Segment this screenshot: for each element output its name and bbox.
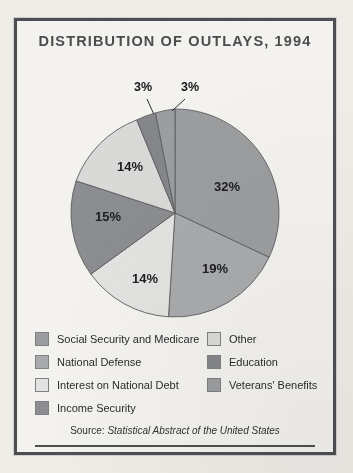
callout-line-education — [147, 99, 154, 114]
legend-item-social-security-and-medicare[interactable]: Social Security and Medicare — [35, 332, 207, 346]
legend-swatch-icon — [207, 332, 221, 346]
pie-label-interest-national-debt: 14% — [132, 271, 158, 286]
legend-label: Social Security and Medicare — [57, 333, 199, 345]
page-title: DISTRIBUTION OF OUTLAYS, 1994 — [17, 33, 333, 49]
legend-label: Education — [229, 356, 278, 368]
source-divider — [35, 445, 315, 447]
legend-label: Income Security — [57, 402, 136, 414]
legend-swatch-icon — [35, 355, 49, 369]
legend-item-education[interactable]: Education — [207, 355, 321, 369]
source-prefix: Source: — [70, 425, 104, 436]
pie-label-other: 14% — [117, 159, 143, 174]
legend-swatch-icon — [207, 355, 221, 369]
legend-label: Veterans' Benefits — [229, 379, 317, 391]
figure-panel: DISTRIBUTION OF OUTLAYS, 1994 — [14, 18, 336, 455]
legend-item-income-security[interactable]: Income Security — [35, 401, 207, 415]
pie-label-social-security: 32% — [214, 179, 240, 194]
source-note: Source: Statistical Abstract of the Unit… — [17, 425, 333, 436]
legend-swatch-icon — [35, 332, 49, 346]
pie-chart: 32% 19% 14% 15% 14% 3% 3% — [17, 61, 333, 323]
legend-item-national-defense[interactable]: National Defense — [35, 355, 207, 369]
legend-label: Interest on National Debt — [57, 379, 179, 391]
pie-label-education: 3% — [134, 80, 152, 94]
legend-swatch-icon — [35, 378, 49, 392]
source-text: Statistical Abstract of the United State… — [107, 425, 280, 436]
legend-label: Other — [229, 333, 257, 345]
legend-item-other[interactable]: Other — [207, 332, 321, 346]
legend-swatch-icon — [35, 401, 49, 415]
pie-label-national-defense: 19% — [202, 261, 228, 276]
legend-item-veterans-benefits[interactable]: Veterans' Benefits — [207, 378, 321, 392]
legend-swatch-icon — [207, 378, 221, 392]
legend-label: National Defense — [57, 356, 141, 368]
pie-chart-svg: 32% 19% 14% 15% 14% 3% 3% — [25, 61, 325, 323]
legend-item-interest-on-national-debt[interactable]: Interest on National Debt — [35, 378, 207, 392]
scanned-page: DISTRIBUTION OF OUTLAYS, 1994 — [0, 0, 353, 473]
pie-label-income-security: 15% — [95, 209, 121, 224]
legend: Social Security and Medicare Other Natio… — [35, 327, 321, 419]
pie-label-veterans-benefits: 3% — [181, 80, 199, 94]
